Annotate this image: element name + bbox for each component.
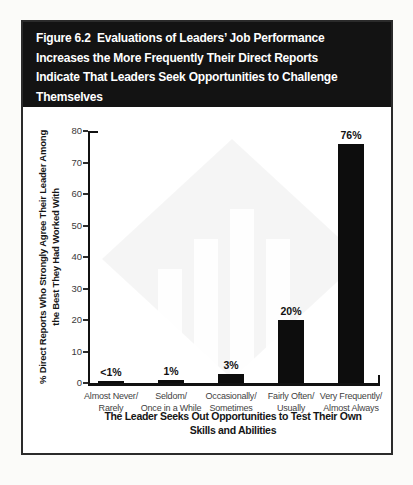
page: Figure 6.2 Evaluations of Leaders’ Job P… bbox=[0, 0, 413, 485]
bar-value-label: 20% bbox=[261, 305, 321, 317]
y-tick-mark bbox=[83, 351, 88, 353]
bar-value-label: 3% bbox=[201, 359, 261, 371]
y-tick-label: 70 bbox=[50, 157, 82, 168]
y-tick-label: 10 bbox=[50, 346, 82, 357]
plot-area: 01020304050607080<1%Almost Never/ Rarely… bbox=[88, 131, 380, 386]
y-tick-label: 80 bbox=[50, 125, 82, 136]
bar-4 bbox=[278, 320, 304, 383]
y-tick-mark bbox=[83, 382, 88, 384]
y-tick-label: 50 bbox=[50, 220, 82, 231]
y-tick-mark bbox=[83, 319, 88, 321]
y-tick-mark bbox=[83, 193, 88, 195]
y-tick-label: 30 bbox=[50, 283, 82, 294]
figure-header: Figure 6.2 Evaluations of Leaders’ Job P… bbox=[23, 22, 391, 107]
bar-value-label: 1% bbox=[141, 365, 201, 377]
y-tick-mark bbox=[83, 256, 88, 258]
bar-5 bbox=[338, 144, 364, 383]
y-tick-label: 60 bbox=[50, 188, 82, 199]
y-tick-mark bbox=[83, 162, 88, 164]
y-tick-label: 40 bbox=[50, 251, 82, 262]
y-tick-label: 20 bbox=[50, 314, 82, 325]
y-tick-label: 0 bbox=[50, 377, 82, 388]
y-axis-top-cap bbox=[90, 131, 98, 133]
bar-1 bbox=[98, 381, 124, 383]
watermark-logo bbox=[100, 137, 364, 383]
bar-value-label: 76% bbox=[321, 129, 381, 141]
bar-3 bbox=[218, 374, 244, 383]
chart-area: % Direct Reports Who Strongly Agree Thei… bbox=[23, 107, 391, 449]
bar-value-label: <1% bbox=[81, 366, 141, 378]
x-axis-end-cap bbox=[378, 375, 380, 383]
y-tick-mark bbox=[83, 130, 88, 132]
bar-2 bbox=[158, 380, 184, 383]
figure-box: Figure 6.2 Evaluations of Leaders’ Job P… bbox=[21, 20, 393, 455]
x-axis-title: The Leader Seeks Out Opportunities to Te… bbox=[53, 410, 413, 437]
y-tick-mark bbox=[83, 288, 88, 290]
figure-title: Figure 6.2 Evaluations of Leaders’ Job P… bbox=[36, 29, 378, 107]
y-tick-mark bbox=[83, 225, 88, 227]
